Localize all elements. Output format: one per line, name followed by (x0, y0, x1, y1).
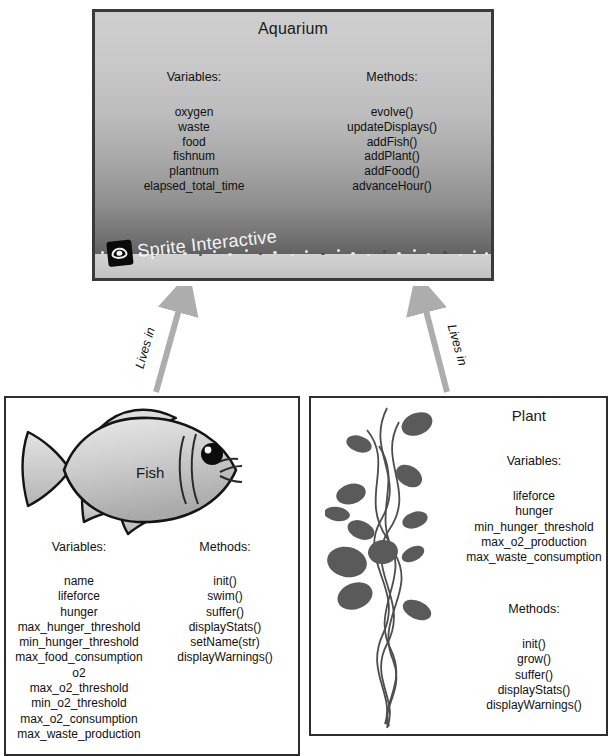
aquarium-variable: food (95, 135, 293, 150)
fish-variable: lifeforce (6, 589, 152, 604)
plant-method: suffer() (459, 668, 608, 683)
aquarium-variable: waste (95, 120, 293, 135)
aquarium-columns: Variables: oxygen waste food fishnum pla… (95, 70, 491, 194)
plant-method: displayStats() (459, 683, 608, 698)
fish-method: setName(str) (152, 635, 298, 650)
fish-class-box: Fish Variables: name lifeforce hunger ma… (4, 396, 300, 756)
aquarium-variable: oxygen (95, 105, 293, 120)
plant-methods-heading: Methods: (459, 602, 608, 616)
plant-title: Plant (512, 407, 546, 424)
plant-class-box: Plant Variables: lifeforce hunger min_hu… (309, 396, 608, 736)
fish-method: displayStats() (152, 620, 298, 635)
fish-variable: max_o2_threshold (6, 681, 152, 696)
fish-variable: max_waste_production (6, 727, 152, 742)
plant-method: init() (459, 637, 608, 652)
fish-methods-heading: Methods: (152, 540, 298, 554)
aquarium-variable: fishnum (95, 149, 293, 164)
aquarium-method: addPlant() (293, 149, 491, 164)
fish-method: swim() (152, 589, 298, 604)
aquarium-method: addFish() (293, 135, 491, 150)
plant-variable: min_hunger_threshold (459, 520, 608, 535)
plant-variable: hunger (459, 504, 608, 519)
fish-methods-column: Methods: init() swim() suffer() displayS… (152, 540, 298, 742)
fish-variables-column: Variables: name lifeforce hunger max_hun… (6, 540, 152, 742)
aquarium-variables-column: Variables: oxygen waste food fishnum pla… (95, 70, 293, 194)
plant-illustration (325, 402, 455, 732)
fish-columns: Variables: name lifeforce hunger max_hun… (6, 540, 298, 742)
plant-variable: max_waste_consumption (459, 550, 608, 565)
fish-method: suffer() (152, 605, 298, 620)
aquarium-variables-heading: Variables: (95, 70, 293, 84)
fish-method: displayWarnings() (152, 650, 298, 665)
aquarium-method: evolve() (293, 105, 491, 120)
fish-variable: o2 (6, 666, 152, 681)
fish-variables-heading: Variables: (6, 540, 152, 554)
plant-method: grow() (459, 652, 608, 667)
aquarium-methods-column: Methods: evolve() updateDisplays() addFi… (293, 70, 491, 194)
aquarium-method: updateDisplays() (293, 120, 491, 135)
lives-in-arrow-plant: Lives in (400, 286, 470, 396)
plant-variables-column: Variables: lifeforce hunger min_hunger_t… (459, 454, 608, 565)
aquarium-method: advanceHour() (293, 179, 491, 194)
aquarium-title: Aquarium (95, 20, 491, 38)
lives-in-arrow-fish: Lives in (140, 286, 210, 396)
fish-variable: max_o2_consumption (6, 712, 152, 727)
fish-variable: max_hunger_threshold (6, 620, 152, 635)
plant-variable: max_o2_production (459, 535, 608, 550)
fish-method: init() (152, 574, 298, 589)
plant-methods-column: Methods: init() grow() suffer() displayS… (459, 602, 608, 713)
aquarium-class-box: Aquarium Variables: oxygen waste food fi… (92, 9, 494, 281)
fish-title: Fish (136, 464, 164, 481)
fish-variable: max_food_consumption (6, 650, 152, 665)
plant-variable: lifeforce (459, 489, 608, 504)
aquarium-method: addFood() (293, 164, 491, 179)
plant-variables-heading: Variables: (459, 454, 608, 468)
aquarium-variable: plantnum (95, 164, 293, 179)
fish-variable: hunger (6, 605, 152, 620)
fish-variable: min_hunger_threshold (6, 635, 152, 650)
fish-variable: name (6, 574, 152, 589)
aquarium-methods-heading: Methods: (293, 70, 491, 84)
eye-icon (106, 239, 133, 266)
plant-method: displayWarnings() (459, 698, 608, 713)
fish-variable: min_o2_threshold (6, 696, 152, 711)
aquarium-variable: elapsed_total_time (95, 179, 293, 194)
